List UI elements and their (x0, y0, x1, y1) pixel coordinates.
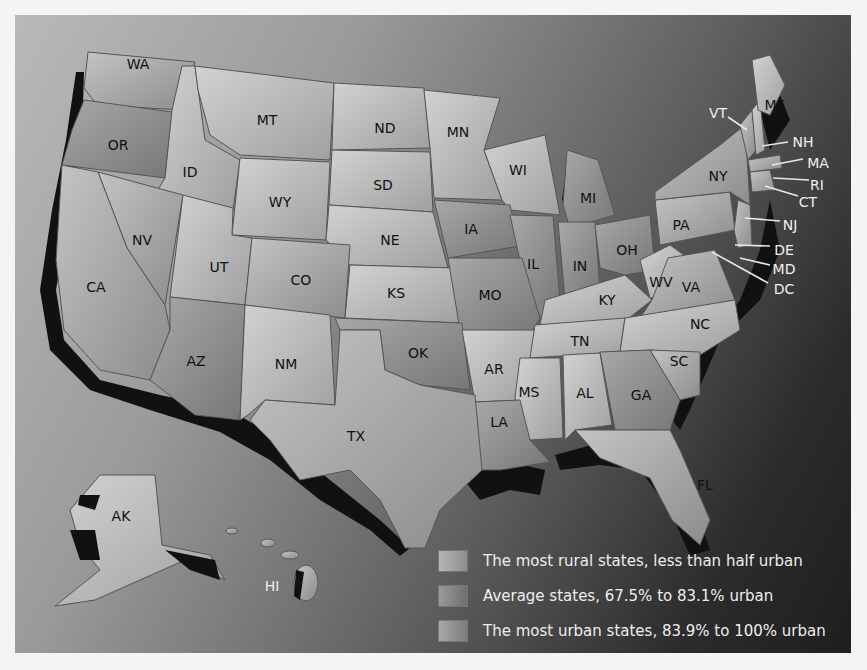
label-NE: NE (380, 232, 399, 248)
label-AK: AK (112, 508, 132, 524)
label-UT: UT (210, 259, 229, 275)
label-MI: MI (580, 190, 596, 206)
label-DC: DC (774, 281, 795, 297)
state-FL[interactable] (575, 430, 710, 545)
legend-swatch-urban (438, 620, 468, 642)
state-NY[interactable] (655, 125, 750, 205)
label-WA: WA (127, 56, 150, 72)
label-CA: CA (86, 279, 106, 295)
label-RI: RI (810, 177, 824, 193)
label-WI: WI (509, 162, 527, 178)
label-AR: AR (484, 361, 504, 377)
state-MI[interactable] (563, 150, 615, 228)
label-ND: ND (374, 120, 395, 136)
label-ME: ME (765, 97, 786, 113)
legend-item-rural: The most rural states, less than half ur… (438, 543, 826, 578)
label-IA: IA (464, 221, 478, 237)
label-TN: TN (569, 333, 589, 349)
label-IL: IL (527, 256, 539, 272)
label-AL: AL (576, 385, 594, 401)
label-MS: MS (519, 384, 540, 400)
label-VA: VA (682, 279, 701, 295)
legend-label-urban: The most urban states, 83.9% to 100% urb… (483, 622, 826, 640)
legend-label-average: Average states, 67.5% to 83.1% urban (483, 587, 773, 605)
label-SC: SC (670, 353, 689, 369)
label-DE: DE (774, 242, 794, 258)
state-MN[interactable] (424, 90, 502, 200)
state-PA[interactable] (655, 192, 735, 245)
label-OH: OH (616, 242, 638, 258)
label-CO: CO (291, 272, 312, 288)
state-NJ[interactable] (734, 200, 752, 248)
label-MA: MA (807, 155, 829, 171)
legend-swatch-rural (438, 550, 468, 572)
label-WY: WY (269, 194, 292, 210)
legend-item-urban: The most urban states, 83.9% to 100% urb… (438, 613, 826, 648)
legend-swatch-average (438, 585, 468, 607)
label-NM: NM (275, 356, 298, 372)
label-WV: WV (649, 274, 673, 290)
label-PA: PA (672, 217, 690, 233)
label-GA: GA (631, 387, 652, 403)
label-VT: VT (709, 105, 728, 121)
label-AZ: AZ (186, 353, 205, 369)
label-NC: NC (690, 316, 710, 332)
label-MO: MO (478, 287, 501, 303)
label-SD: SD (373, 177, 393, 193)
label-NV: NV (132, 232, 152, 248)
label-TX: TX (346, 428, 366, 444)
label-NY: NY (708, 168, 727, 184)
label-FL: FL (697, 477, 713, 493)
states (55, 52, 785, 606)
label-LA: LA (490, 414, 508, 430)
label-HI: HI (265, 578, 280, 594)
label-ID: ID (183, 164, 198, 180)
label-KS: KS (387, 285, 405, 301)
label-OK: OK (408, 345, 429, 361)
label-NH: NH (793, 134, 814, 150)
label-NJ: NJ (783, 217, 798, 233)
label-OR: OR (108, 137, 129, 153)
state-ND[interactable] (332, 83, 430, 150)
label-IN: IN (573, 258, 588, 274)
label-MD: MD (773, 261, 796, 277)
map-panel: WA OR ID MT WY ND SD NE MN WI MI IA IL I… (15, 15, 851, 653)
legend-label-rural: The most rural states, less than half ur… (483, 552, 803, 570)
label-KY: KY (598, 292, 616, 308)
legend: The most rural states, less than half ur… (438, 543, 826, 648)
label-MN: MN (447, 124, 470, 140)
label-MT: MT (257, 112, 278, 128)
legend-item-average: Average states, 67.5% to 83.1% urban (438, 578, 826, 613)
label-CT: CT (799, 194, 818, 210)
